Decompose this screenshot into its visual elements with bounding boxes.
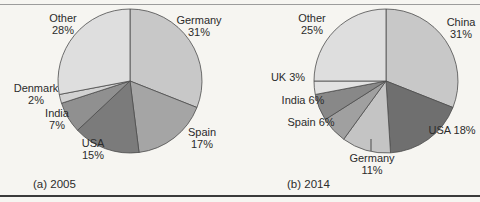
- slice-label-line: India 6%: [282, 94, 325, 106]
- slice-label-2014-other: Other25%: [298, 12, 326, 36]
- slice-label-line: Other: [49, 12, 77, 24]
- slice-label-line: China: [447, 16, 476, 28]
- slice-label-2014-germany: Germany11%: [349, 152, 394, 176]
- slice-label-2005-india: India7%: [45, 107, 69, 131]
- figure-canvas: Germany31%Spain17%USA15%India7%Denmark2%…: [0, 0, 480, 202]
- slice-label-line: 28%: [52, 24, 74, 36]
- slice-label-line: 25%: [301, 24, 323, 36]
- slice-label-2005-spain: Spain17%: [188, 126, 216, 150]
- slice-label-line: 31%: [188, 26, 210, 38]
- slice-label-line: Denmark: [14, 82, 59, 94]
- slice-label-line: Other: [298, 12, 326, 24]
- slice-label-2005-denmark: Denmark2%: [14, 82, 59, 106]
- slice-label-line: Spain: [188, 126, 216, 138]
- slice-label-line: Spain 6%: [287, 116, 334, 128]
- slice-label-line: USA: [82, 137, 105, 149]
- slice-label-line: 2%: [28, 94, 44, 106]
- slice-label-line: 11%: [361, 164, 382, 176]
- slice-label-line: Germany: [176, 14, 221, 26]
- slice-label-2005-other: Other28%: [49, 12, 77, 36]
- slice-label-line: 31%: [450, 28, 472, 40]
- slice-label-2005-germany: Germany31%: [176, 14, 221, 38]
- bottom-rule: [0, 195, 480, 197]
- slice-label-line: India: [45, 107, 69, 119]
- slice-label-line: Germany: [349, 152, 394, 164]
- caption-2005: (a) 2005: [33, 178, 76, 190]
- caption-2014: (b) 2014: [287, 178, 330, 190]
- slice-label-line: 15%: [82, 149, 104, 161]
- slice-label-line: 7%: [49, 119, 65, 131]
- slice-label-line: UK 3%: [271, 71, 305, 83]
- slice-label-line: 17%: [191, 138, 213, 150]
- slice-label-2005-usa: USA15%: [82, 137, 105, 161]
- slice-label-2014-spain: Spain 6%: [287, 116, 334, 128]
- slice-label-2014-usa: USA 18%: [428, 124, 475, 136]
- slice-label-2014-uk: UK 3%: [271, 71, 305, 83]
- slice-label-2014-india: India 6%: [282, 94, 325, 106]
- slice-label-line: USA 18%: [428, 124, 475, 136]
- slice-label-2014-china: China31%: [447, 16, 476, 40]
